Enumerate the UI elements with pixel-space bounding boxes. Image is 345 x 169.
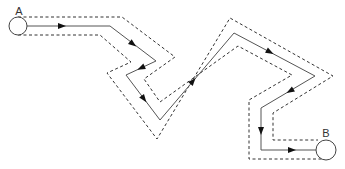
arrowhead-icon xyxy=(288,147,296,153)
arrowhead-icon xyxy=(265,47,275,56)
end-node-b xyxy=(316,140,336,160)
arrowhead-icon xyxy=(258,127,264,135)
arrowhead-icon xyxy=(285,86,295,95)
direction-arrows xyxy=(58,23,296,153)
solid-route-line xyxy=(27,26,316,150)
start-node-a xyxy=(9,17,27,35)
dashed-boundary-lower xyxy=(18,18,333,140)
dashed-boundary-upper xyxy=(18,17,328,159)
start-label: A xyxy=(15,5,23,17)
path-diagram: A B xyxy=(0,0,345,169)
end-label: B xyxy=(322,127,329,139)
arrowhead-icon xyxy=(136,64,146,73)
arrowhead-icon xyxy=(58,23,66,29)
